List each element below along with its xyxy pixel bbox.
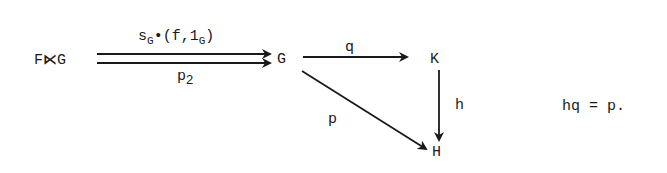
- node-g: G: [277, 52, 286, 67]
- equation: hq = p.: [562, 99, 625, 114]
- label-s: s: [138, 28, 147, 45]
- node-f: F: [34, 52, 43, 69]
- label-s-sub: G: [147, 35, 154, 47]
- label-bottom-parallel: p2: [177, 69, 193, 84]
- node-product: F⋉G: [34, 52, 66, 68]
- semidirect-product-icon: ⋉: [43, 51, 57, 67]
- node-g-factor: G: [57, 52, 66, 69]
- label-q: q: [345, 40, 354, 55]
- label-p-diagonal: p: [328, 112, 337, 127]
- label-close-paren: ): [205, 28, 214, 45]
- label-one-sub: G: [199, 35, 206, 47]
- composition-dot: •: [154, 28, 163, 45]
- label-h: h: [455, 98, 464, 113]
- label-pair: (f,1: [163, 28, 199, 45]
- label-p: p: [177, 68, 186, 85]
- node-k: K: [430, 52, 439, 67]
- node-h: H: [432, 145, 441, 160]
- arrow-g-to-h: [302, 71, 426, 149]
- label-top-parallel: sG•(f,1G): [138, 29, 214, 44]
- diagram-arrows: [0, 0, 667, 173]
- label-p-sub: 2: [186, 72, 193, 87]
